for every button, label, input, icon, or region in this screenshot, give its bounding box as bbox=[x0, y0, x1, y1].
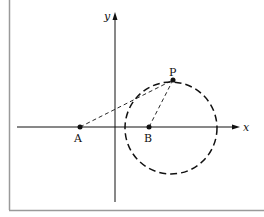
segment-AP bbox=[80, 80, 173, 127]
y-axis-label: y bbox=[103, 10, 111, 23]
point-A bbox=[78, 125, 83, 130]
figure: x y A B P bbox=[0, 0, 264, 217]
dashed-circle bbox=[125, 82, 217, 174]
x-axis-label: x bbox=[243, 121, 250, 134]
y-axis-arrow-icon bbox=[113, 12, 118, 20]
diagram-canvas: x y A B P bbox=[0, 0, 264, 217]
label-A: A bbox=[73, 132, 83, 145]
point-B bbox=[147, 125, 152, 130]
x-axis-arrow-icon bbox=[232, 125, 240, 130]
label-B: B bbox=[144, 132, 152, 145]
label-P: P bbox=[169, 66, 177, 79]
segment-BP bbox=[149, 80, 173, 127]
